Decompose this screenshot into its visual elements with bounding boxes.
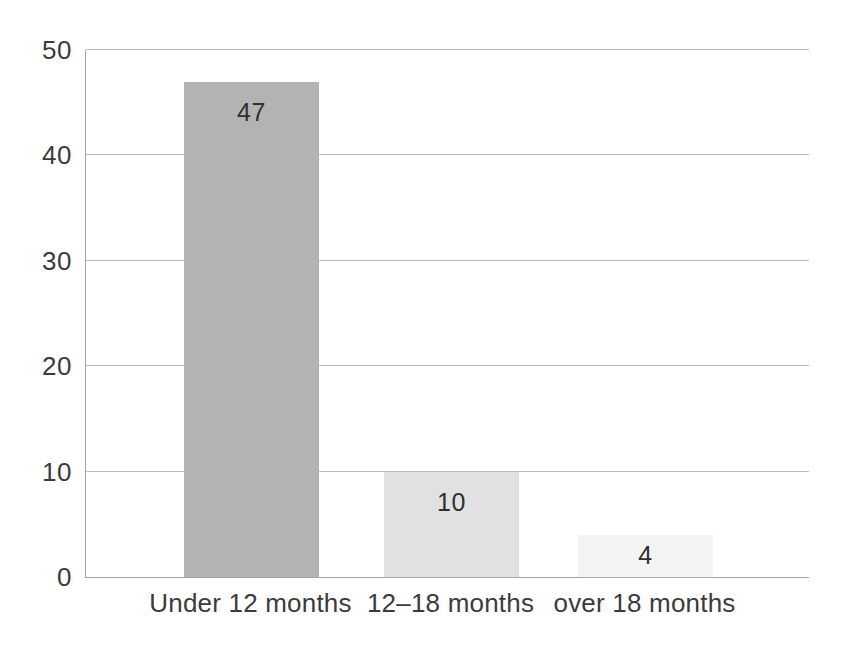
gridline-y-50 xyxy=(86,49,809,50)
y-axis-tick-label-40: 40 xyxy=(14,141,72,169)
bar-value-label: 47 xyxy=(237,100,266,125)
bar-chart: 47104 01020304050Under 12 months12–18 mo… xyxy=(0,0,851,653)
x-axis-category-label-3: over 18 months xyxy=(515,588,775,618)
bar-12-18-months: 10 xyxy=(384,472,519,577)
plot-area: 47104 xyxy=(85,50,809,578)
y-axis-tick-label-10: 10 xyxy=(14,458,72,486)
bar-value-label: 10 xyxy=(437,490,466,515)
y-axis-tick-label-30: 30 xyxy=(14,247,72,275)
bar-over-18-months: 4 xyxy=(578,535,713,577)
y-axis-tick-label-20: 20 xyxy=(14,352,72,380)
bar-value-label: 4 xyxy=(638,543,652,568)
y-axis-tick-label-50: 50 xyxy=(14,36,72,64)
bar-under-12-months: 47 xyxy=(184,82,319,577)
y-axis-tick-label-0: 0 xyxy=(14,563,72,591)
